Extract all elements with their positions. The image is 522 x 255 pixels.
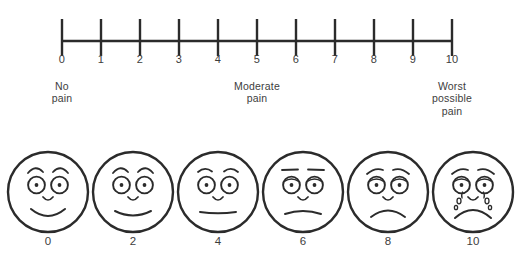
mouth	[371, 211, 405, 218]
pain-scale-figure: 012345678910 No painModerate painWorst p…	[0, 0, 522, 255]
tick-label: 5	[242, 53, 272, 66]
mouth	[285, 211, 321, 214]
nose	[468, 197, 478, 200]
eyebrows	[113, 168, 153, 173]
face-outline	[348, 152, 428, 232]
face-outline	[8, 152, 88, 232]
face-outline	[93, 152, 173, 232]
face-label-4: 4	[198, 235, 238, 249]
nose	[43, 197, 53, 200]
tick-label: 0	[47, 53, 77, 66]
mouth	[31, 209, 65, 216]
nose	[298, 197, 308, 200]
tick-label: 6	[281, 53, 311, 66]
face-label-6: 6	[283, 235, 323, 249]
face-row-graphic	[8, 152, 513, 232]
tick-label: 3	[164, 53, 194, 66]
tick-label: 9	[398, 53, 428, 66]
face-label-0: 0	[28, 235, 68, 249]
mouth	[455, 210, 491, 218]
face-outline	[263, 152, 343, 232]
anchor-label-no-pain: No pain	[2, 80, 122, 105]
tick-label: 7	[320, 53, 350, 66]
eyebrows	[367, 169, 409, 174]
eyebrows	[198, 169, 238, 172]
face-outline	[178, 152, 258, 232]
tick-label: 2	[125, 53, 155, 66]
anchor-label-worst-possible-pain: Worst possible pain	[392, 80, 512, 117]
eyes	[198, 177, 238, 194]
face-outline	[433, 152, 513, 232]
face-4[interactable]	[178, 152, 258, 232]
tick-label: 8	[359, 53, 389, 66]
mouth	[200, 212, 236, 213]
number-line-graphic	[0, 0, 522, 255]
face-10[interactable]	[433, 152, 513, 232]
eyebrows	[282, 170, 324, 171]
anchor-label-moderate-pain: Moderate pain	[197, 80, 317, 105]
face-6[interactable]	[263, 152, 343, 232]
nose	[383, 197, 393, 200]
eyes	[283, 177, 323, 194]
tick-label: 10	[437, 53, 467, 66]
face-label-10: 10	[453, 235, 493, 249]
tick-label: 1	[86, 53, 116, 66]
eyes	[28, 177, 68, 194]
face-2[interactable]	[93, 152, 173, 232]
eyes	[453, 177, 493, 194]
face-label-2: 2	[113, 235, 153, 249]
tick-marks	[62, 19, 452, 56]
eyes	[368, 177, 408, 194]
nose	[213, 197, 223, 200]
face-label-8: 8	[368, 235, 408, 249]
eyebrows	[452, 169, 494, 174]
nose	[128, 197, 138, 200]
eyes	[113, 177, 153, 194]
mouth	[115, 211, 151, 216]
scale-axis	[62, 19, 452, 56]
tick-label: 4	[203, 53, 233, 66]
face-8[interactable]	[348, 152, 428, 232]
eyebrows	[28, 168, 68, 173]
face-0[interactable]	[8, 152, 88, 232]
